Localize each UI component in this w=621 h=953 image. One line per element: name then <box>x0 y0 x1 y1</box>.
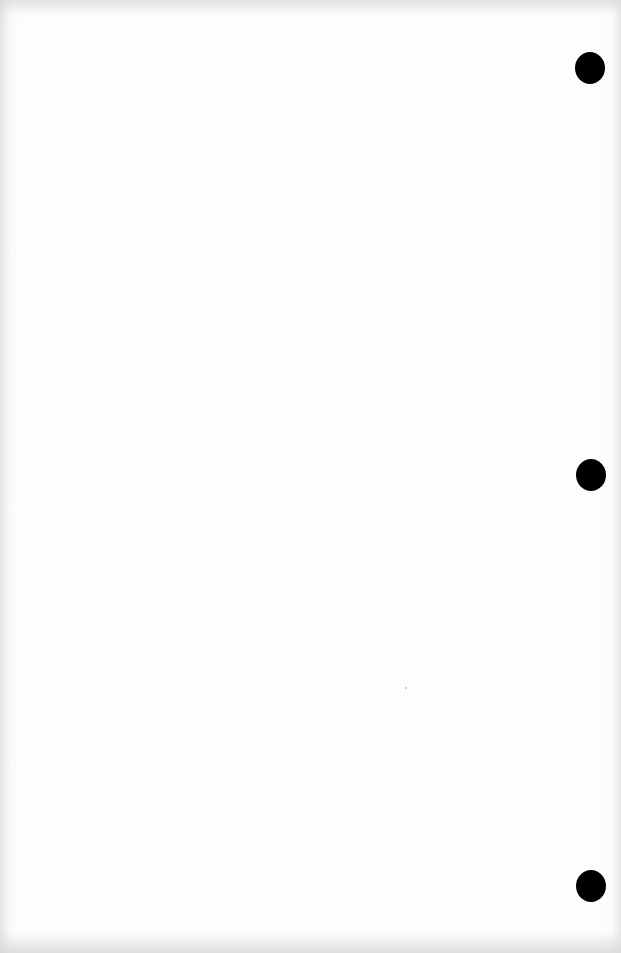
hole-punch-middle <box>576 459 606 491</box>
hole-punch-top <box>575 52 605 84</box>
scan-edge-shadow-right <box>613 0 621 953</box>
hole-punch-bottom <box>576 870 606 902</box>
dust-speck <box>405 687 407 689</box>
scan-edge-shadow-left <box>0 0 10 953</box>
scanned-blank-page <box>0 0 621 953</box>
scan-edge-shadow-bottom <box>0 931 621 953</box>
scan-edge-shadow-top <box>0 0 621 14</box>
